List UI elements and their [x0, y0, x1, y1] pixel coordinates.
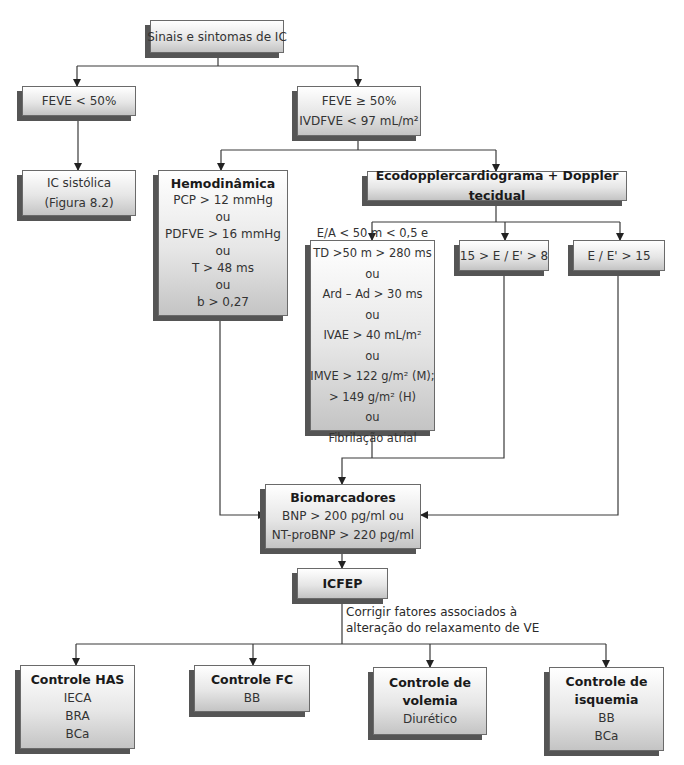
hemodinamica-line-6: ou — [216, 277, 231, 294]
feve-high-line-2: IVDFVE < 97 mL/m² — [299, 111, 418, 131]
control-volemia-line-1: Diurético — [403, 710, 457, 728]
control-volemia-title-2: volemia — [402, 692, 457, 710]
eco-criteria-line-1: E/A < 50 m < 0,5 e — [317, 223, 428, 244]
control-fc-title: Controle FC — [211, 671, 293, 689]
control-isquemia-box: Controle de isquemia BB BCa — [549, 667, 664, 751]
control-isquemia-title-2: isquemia — [575, 691, 639, 709]
ratio-mid-label: 15 > E / E' > 8 — [460, 246, 548, 266]
ic-sistolica-line-1: IC sistólica — [47, 173, 111, 193]
ratio-mid-box: 15 > E / E' > 8 — [459, 240, 549, 271]
control-fc-box: Controle FC BB — [194, 665, 310, 712]
eco-criteria-line-9: > 149 g/m² (H) — [329, 387, 416, 408]
ic-sistolica-box: IC sistólica (Figura 8.2) — [22, 170, 136, 216]
ratio-high-label: E / E' > 15 — [587, 246, 650, 266]
control-has-line-1: IECA — [64, 689, 92, 707]
start-label: Sinais e sintomas de IC — [147, 27, 287, 47]
ic-sistolica-line-2: (Figura 8.2) — [44, 193, 113, 213]
control-has-line-3: BCa — [66, 725, 90, 743]
hemodinamica-line-1: PCP > 12 mmHg — [173, 192, 273, 209]
eco-criteria-line-4: Ard – Ad > 30 ms — [322, 284, 422, 305]
feve-high-box: FEVE ≥ 50% IVDFVE < 97 mL/m² — [297, 86, 421, 136]
ecodoppler-title: Ecodopplercardiograma + Doppler tecidual — [368, 166, 626, 206]
biomarcadores-title: Biomarcadores — [290, 488, 396, 507]
ecodoppler-box: Ecodopplercardiograma + Doppler tecidual — [367, 171, 627, 201]
eco-criteria-line-5: ou — [365, 305, 379, 326]
icfep-title: ICFEP — [322, 574, 362, 594]
ratio-high-box: E / E' > 15 — [573, 240, 665, 271]
control-has-line-2: BRA — [65, 707, 89, 725]
hemodinamica-line-2: ou — [216, 209, 231, 226]
hemodinamica-box: Hemodinâmica PCP > 12 mmHg ou PDFVE > 16… — [158, 170, 288, 316]
start-box: Sinais e sintomas de IC — [150, 20, 284, 53]
control-isquemia-line-1: BB — [598, 709, 614, 727]
eco-criteria-line-11: Fibrilação atrial — [328, 428, 416, 449]
hemodinamica-line-5: T > 48 ms — [192, 260, 254, 277]
eco-criteria-line-10: ou — [365, 407, 379, 428]
hemodinamica-line-4: ou — [216, 243, 231, 260]
eco-criteria-box: E/A < 50 m < 0,5 e TD >50 m > 280 ms ou … — [310, 240, 435, 431]
biomarcadores-box: Biomarcadores BNP > 200 pg/ml ou NT-proB… — [265, 484, 421, 549]
biomarcadores-line-2: NT-proBNP > 220 pg/ml — [272, 526, 414, 545]
icfep-box: ICFEP — [297, 568, 388, 599]
eco-criteria-line-8: IMVE > 122 g/m² (M); — [310, 366, 434, 387]
note-line-1: Corrigir fatores associados à — [346, 604, 539, 620]
hemodinamica-line-3: PDFVE > 16 mmHg — [165, 226, 281, 243]
note-text: Corrigir fatores associados à alteração … — [346, 604, 539, 636]
eco-criteria-line-6: IVAE > 40 mL/m² — [323, 325, 421, 346]
hemodinamica-line-7: b > 0,27 — [197, 294, 249, 311]
feve-high-line-1: FEVE ≥ 50% — [322, 91, 397, 111]
feve-low-label: FEVE < 50% — [42, 91, 117, 111]
eco-criteria-line-3: ou — [365, 264, 379, 285]
control-isquemia-line-2: BCa — [595, 727, 619, 745]
feve-low-box: FEVE < 50% — [22, 86, 136, 116]
control-isquemia-title-1: Controle de — [566, 673, 648, 691]
control-volemia-box: Controle de volemia Diurético — [373, 667, 487, 735]
control-has-title: Controle HAS — [31, 671, 125, 689]
biomarcadores-line-1: BNP > 200 pg/ml ou — [282, 507, 404, 526]
note-line-2: alteração do relaxamento de VE — [346, 620, 539, 636]
control-volemia-title-1: Controle de — [389, 674, 471, 692]
hemodinamica-title: Hemodinâmica — [171, 175, 275, 192]
eco-criteria-line-7: ou — [365, 346, 379, 367]
eco-criteria-line-2: TD >50 m > 280 ms — [313, 243, 431, 264]
control-has-box: Controle HAS IECA BRA BCa — [20, 665, 135, 749]
control-fc-line-1: BB — [244, 689, 260, 707]
